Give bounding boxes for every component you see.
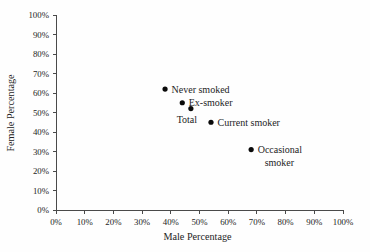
x-tick-label: 0% — [50, 217, 62, 227]
data-point — [188, 106, 193, 111]
y-tick-label: 40% — [33, 127, 50, 137]
y-tick-label: 90% — [33, 30, 50, 40]
y-tick-label: 50% — [33, 108, 50, 118]
y-tick-label: 100% — [28, 10, 49, 20]
data-point-label: Current smoker — [217, 117, 280, 128]
x-tick-label: 10% — [77, 217, 94, 227]
data-point-label: Ex-smoker — [189, 97, 234, 108]
y-tick-label: 10% — [33, 186, 50, 196]
x-tick-label: 70% — [249, 217, 266, 227]
x-tick-label: 90% — [306, 217, 323, 227]
x-tick-label: 60% — [220, 217, 237, 227]
figure-page: 0%10%20%30%40%50%60%70%80%90%100%0%10%20… — [0, 0, 370, 252]
y-tick-label: 0% — [37, 205, 49, 215]
x-axis-title: Male Percentage — [163, 231, 232, 242]
y-tick-label: 20% — [33, 166, 50, 176]
x-tick-label: 100% — [333, 217, 354, 227]
data-point-label: Total — [177, 114, 198, 125]
x-tick-label: 20% — [105, 217, 122, 227]
data-point-label: smoker — [265, 157, 295, 168]
x-tick-label: 80% — [278, 217, 295, 227]
y-tick-label: 30% — [33, 147, 50, 157]
scatter-chart: 0%10%20%30%40%50%60%70%80%90%100%0%10%20… — [0, 0, 370, 252]
data-point — [249, 147, 254, 152]
y-tick-label: 70% — [33, 69, 50, 79]
x-tick-label: 40% — [163, 217, 180, 227]
y-tick-label: 60% — [33, 88, 50, 98]
data-point-label: Occasional — [258, 144, 303, 155]
x-tick-label: 50% — [191, 217, 208, 227]
y-tick-label: 80% — [33, 49, 50, 59]
y-axis-title: Female Percentage — [5, 74, 16, 152]
x-tick-label: 30% — [134, 217, 151, 227]
data-point — [162, 87, 167, 92]
data-point — [180, 100, 185, 105]
data-point — [208, 120, 213, 125]
data-point-label: Never smoked — [172, 84, 230, 95]
